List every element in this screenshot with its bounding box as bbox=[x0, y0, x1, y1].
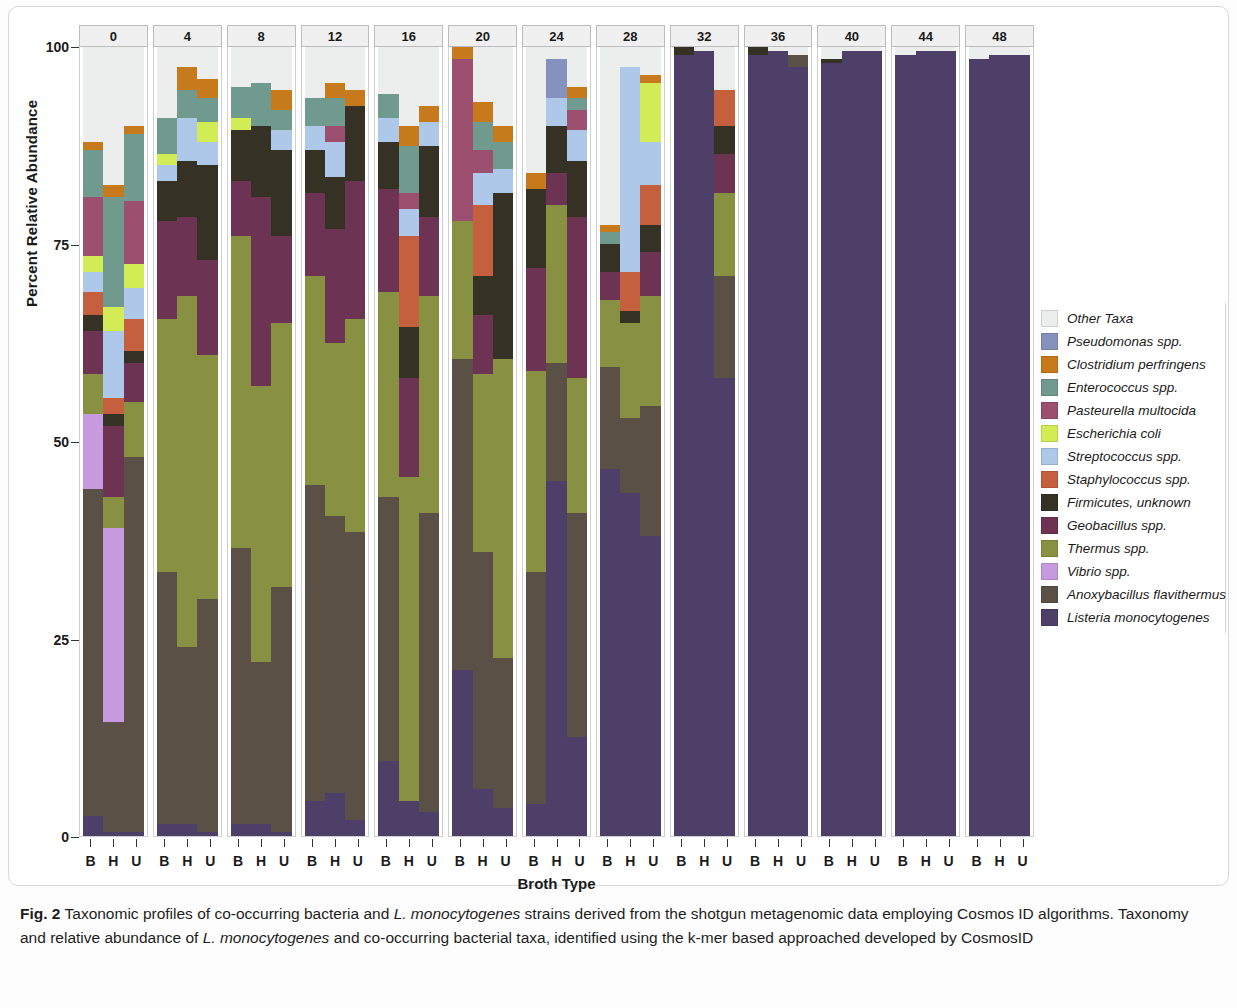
x-tick-mark bbox=[727, 839, 728, 847]
stacked-bar[interactable] bbox=[546, 47, 566, 836]
bar-segment bbox=[936, 51, 956, 836]
x-tick-mark bbox=[926, 839, 927, 847]
x-tick-mark bbox=[210, 839, 211, 847]
bar-segment bbox=[399, 209, 419, 237]
legend-item[interactable]: Enterococcus spp. bbox=[1041, 376, 1236, 399]
legend-item[interactable]: Pseudomonas spp. bbox=[1041, 330, 1236, 353]
x-tick-mark bbox=[557, 839, 558, 847]
bar-segment bbox=[103, 331, 123, 398]
bar-segment bbox=[157, 118, 177, 154]
legend-item[interactable]: Geobacillus spp. bbox=[1041, 514, 1236, 537]
legend-item[interactable]: Escherichia coli bbox=[1041, 422, 1236, 445]
legend-item[interactable]: Streptococcus spp. bbox=[1041, 445, 1236, 468]
stacked-bar[interactable] bbox=[748, 47, 768, 836]
bar-segment bbox=[473, 374, 493, 552]
bar-segment bbox=[600, 367, 620, 470]
bar-segment bbox=[378, 497, 398, 761]
stacked-bar[interactable] bbox=[124, 47, 144, 836]
bar-segment bbox=[103, 414, 123, 426]
stacked-bar[interactable] bbox=[862, 47, 882, 836]
stacked-bar[interactable] bbox=[231, 47, 251, 836]
stacked-bar[interactable] bbox=[271, 47, 291, 836]
x-tick-label: H bbox=[182, 853, 192, 869]
facet-plot-body bbox=[522, 47, 591, 837]
chart-facet-panel: 32 bbox=[670, 25, 739, 837]
bar-segment bbox=[231, 181, 251, 236]
legend-item[interactable]: Anoxybacillus flavithermus bbox=[1041, 583, 1236, 606]
stacked-bar[interactable] bbox=[473, 47, 493, 836]
stacked-bar[interactable] bbox=[378, 47, 398, 836]
bar-segment bbox=[546, 98, 566, 126]
stacked-bar[interactable] bbox=[600, 47, 620, 836]
stacked-bar[interactable] bbox=[1010, 47, 1030, 836]
stacked-bar[interactable] bbox=[103, 47, 123, 836]
bar-segment bbox=[177, 217, 197, 296]
stacked-bar[interactable] bbox=[567, 47, 587, 836]
stacked-bar[interactable] bbox=[305, 47, 325, 836]
stacked-bar[interactable] bbox=[674, 47, 694, 836]
x-tick-label: B bbox=[676, 853, 686, 869]
stacked-bar[interactable] bbox=[83, 47, 103, 836]
legend-item[interactable]: Thermus spp. bbox=[1041, 537, 1236, 560]
stacked-bar[interactable] bbox=[345, 47, 365, 836]
stacked-bar[interactable] bbox=[251, 47, 271, 836]
stacked-bar[interactable] bbox=[989, 47, 1009, 836]
facet-strip-label: 44 bbox=[891, 25, 960, 47]
legend-item[interactable]: Other Taxa bbox=[1041, 307, 1236, 330]
stacked-bar[interactable] bbox=[325, 47, 345, 836]
stacked-bar[interactable] bbox=[714, 47, 734, 836]
bar-segment bbox=[620, 47, 640, 67]
stacked-bar[interactable] bbox=[842, 47, 862, 836]
legend-color-swatch bbox=[1041, 425, 1058, 442]
legend-item[interactable]: Firmicutes, unknown bbox=[1041, 491, 1236, 514]
bar-segment bbox=[526, 173, 546, 189]
x-axis-tick-labels: BHUBHUBHUBHUBHUBHUBHUBHUBHUBHUBHUBHUBHU bbox=[79, 853, 1034, 873]
stacked-bar[interactable] bbox=[157, 47, 177, 836]
stacked-bar[interactable] bbox=[640, 47, 660, 836]
stacked-bar[interactable] bbox=[177, 47, 197, 836]
bar-segment bbox=[674, 55, 694, 836]
bar-segment bbox=[452, 670, 472, 836]
bar-segment bbox=[251, 662, 271, 824]
y-axis-ticks: 0255075100 bbox=[31, 37, 79, 837]
chart-facet-panel: 28 bbox=[596, 25, 665, 837]
legend-item[interactable]: Pasteurella multocida bbox=[1041, 399, 1236, 422]
x-tick-label: B bbox=[85, 853, 95, 869]
x-tick-label: U bbox=[796, 853, 806, 869]
legend-item[interactable]: Listeria monocytogenes bbox=[1041, 606, 1236, 629]
bar-segment bbox=[157, 824, 177, 836]
x-tick-mark bbox=[187, 839, 188, 847]
x-tick-label: H bbox=[108, 853, 118, 869]
stacked-bar[interactable] bbox=[620, 47, 640, 836]
stacked-bar[interactable] bbox=[399, 47, 419, 836]
bar-segment bbox=[473, 315, 493, 374]
stacked-bar[interactable] bbox=[821, 47, 841, 836]
legend-item[interactable]: Vibrio spp. bbox=[1041, 560, 1236, 583]
stacked-bar[interactable] bbox=[419, 47, 439, 836]
bar-segment bbox=[567, 378, 587, 512]
bar-segment bbox=[473, 276, 493, 315]
bar-segment bbox=[399, 126, 419, 146]
stacked-bar[interactable] bbox=[526, 47, 546, 836]
bar-segment bbox=[305, 126, 325, 150]
stacked-bar[interactable] bbox=[969, 47, 989, 836]
bar-segment bbox=[124, 351, 144, 363]
stacked-bar[interactable] bbox=[895, 47, 915, 836]
bar-segment bbox=[399, 193, 419, 209]
stacked-bar[interactable] bbox=[452, 47, 472, 836]
stacked-bar[interactable] bbox=[197, 47, 217, 836]
bar-segment bbox=[546, 173, 566, 205]
stacked-bar[interactable] bbox=[768, 47, 788, 836]
legend-item[interactable]: Clostridium perfringens bbox=[1041, 353, 1236, 376]
bar-segment bbox=[345, 820, 365, 836]
figure-caption: Fig. 2 Taxonomic profiles of co-occurrin… bbox=[20, 902, 1215, 950]
stacked-bar[interactable] bbox=[493, 47, 513, 836]
facet-plot-body bbox=[448, 47, 517, 837]
facet-strip-label: 28 bbox=[596, 25, 665, 47]
stacked-bar[interactable] bbox=[916, 47, 936, 836]
stacked-bar[interactable] bbox=[936, 47, 956, 836]
stacked-bar[interactable] bbox=[694, 47, 714, 836]
stacked-bar[interactable] bbox=[788, 47, 808, 836]
legend-item[interactable]: Staphylococcus spp. bbox=[1041, 468, 1236, 491]
bar-segment bbox=[620, 67, 640, 272]
